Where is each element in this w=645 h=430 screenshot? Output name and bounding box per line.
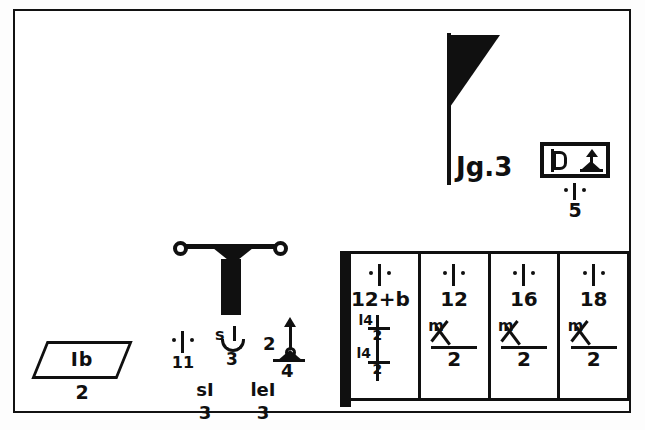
table-cell-2: 12 m 2: [421, 254, 491, 398]
dot-stroke-dot-icon: [367, 264, 393, 286]
m-denominator: 2: [426, 349, 482, 369]
table-cell-4-number: 18: [580, 289, 608, 309]
m-denominator: 2: [496, 349, 552, 369]
post-assembly: [173, 239, 291, 317]
m-denominator: 2: [566, 349, 622, 369]
expression-row-1: l4: [358, 313, 373, 327]
table-cell-2-number: 12: [440, 289, 468, 309]
symbol-s-bottom: 3: [226, 351, 238, 368]
bottom-label-right-top: leI: [237, 381, 289, 399]
tree-arrow-icon: [580, 149, 604, 175]
parallelogram-tag: Ib 2: [39, 341, 125, 379]
bottom-label-right: leI 3: [237, 381, 289, 422]
tree-arrow-base: [580, 169, 603, 172]
table-cell-1-expression: l4 2 l4 2: [352, 313, 408, 387]
symbol-arrow-group: 2 4: [263, 317, 311, 377]
figure-page: Ib 2 11 s 3: [0, 0, 645, 430]
d-shape-icon: [553, 151, 567, 170]
parallelogram-label: Ib: [39, 350, 125, 369]
table-cell-3-number: 16: [510, 289, 538, 309]
boxed-pair-symbol: [540, 142, 610, 178]
symbol-arrow-bottom-number: 4: [281, 362, 294, 380]
bottom-label-left: sI 3: [179, 381, 231, 422]
expression-row-2: 2: [372, 328, 382, 342]
table-cell-3: 16 m 2: [491, 254, 561, 398]
symbol-table: 12+b l4 2 l4 2 12 m: [340, 251, 630, 401]
bottom-label-right-number: 3: [237, 404, 289, 422]
symbol-eleven-number: 11: [170, 355, 196, 371]
d-shape-stem: [551, 149, 554, 172]
figure-caption: Jg.3: [456, 154, 512, 180]
bottom-label-left-number: 3: [179, 404, 231, 422]
dot-stroke-dot-icon: [511, 264, 537, 286]
table-cell-1-number: 12+b: [351, 289, 410, 309]
tree-arrow-wedge: [582, 161, 600, 169]
boxed-pair-number: 5: [562, 201, 588, 220]
table-cell-4: 18 m 2: [560, 254, 627, 398]
dot-stroke-dot-icon: [170, 331, 196, 353]
bottom-label-left-top: sI: [179, 381, 231, 399]
table-cell-1: 12+b l4 2 l4 2: [343, 254, 421, 398]
dot-stroke-dot-icon: [441, 264, 467, 286]
m-over-2-glyph: m 2: [496, 319, 552, 367]
m-over-2-glyph: m 2: [566, 319, 622, 367]
post-stem: [221, 259, 241, 315]
m-over-2-glyph: m 2: [426, 319, 482, 367]
ring-icon-right: [273, 241, 288, 256]
ring-icon-left: [173, 241, 188, 256]
symbol-eleven-group: 11: [170, 331, 196, 371]
expression-row-3: l4: [356, 346, 371, 360]
symbol-arrow-left-number: 2: [263, 335, 276, 353]
flag-banner-icon: [450, 35, 500, 107]
figure-outer-frame: Ib 2 11 s 3: [13, 9, 631, 413]
expression-row-4: 2: [372, 362, 382, 376]
dot-stroke-dot-icon: [581, 264, 607, 286]
parallelogram-sub-label: 2: [39, 383, 125, 402]
